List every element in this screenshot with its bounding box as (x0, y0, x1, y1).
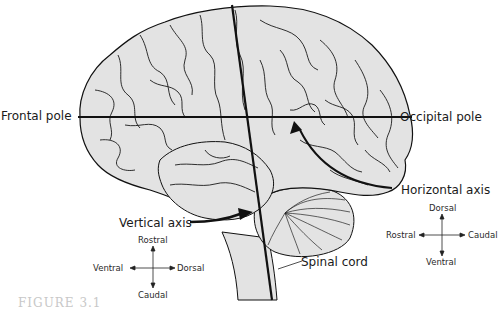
compass-right-top-label: Dorsal (429, 204, 456, 213)
compass-left-top-label: Rostral (138, 236, 168, 245)
spinal-cord-leader-line (278, 261, 302, 269)
vertical-axis-label: Vertical axis (119, 217, 192, 229)
compass-left-bottom-label: Caudal (138, 291, 168, 300)
occipital-pole-label: Occipital pole (400, 111, 482, 123)
compass-right-right-label: Caudal (468, 231, 498, 240)
orientation-compass-left (130, 246, 175, 288)
compass-left-right-label: Dorsal (177, 264, 204, 273)
figure-caption: FIGURE 3.1 (18, 296, 101, 310)
compass-left-left-label: Ventral (93, 264, 123, 273)
compass-right-bottom-label: Ventral (426, 258, 456, 267)
horizontal-axis-label: Horizontal axis (401, 184, 490, 196)
spinal-cord-label: Spinal cord (301, 256, 368, 268)
orientation-compass-right (419, 214, 465, 256)
compass-right-left-label: Rostral (386, 231, 416, 240)
frontal-pole-label: Frontal pole (1, 110, 72, 122)
